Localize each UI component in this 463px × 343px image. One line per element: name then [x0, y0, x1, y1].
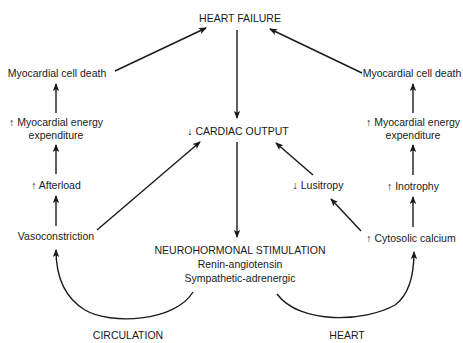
node-left-energy-line2: expenditure	[29, 129, 84, 141]
arrow-neuro-to-vasoconstriction-circulation	[56, 250, 193, 319]
arrow-right-cell-death-to-heart-failure	[270, 29, 362, 73]
node-inotrophy: ↑ Inotrophy	[387, 180, 440, 192]
node-right-cell-death: Myocardial cell death	[363, 67, 462, 79]
node-heart-failure: HEART FAILURE	[199, 12, 281, 24]
arrow-calcium-to-lusitropy	[331, 199, 361, 231]
heart-failure-diagram: HEART FAILURE ↓ CARDIAC OUTPUT Myocardia…	[0, 0, 463, 343]
node-neurohormonal-sympathetic: Sympathetic-adrenergic	[185, 272, 296, 284]
node-cardiac-output: ↓ CARDIAC OUTPUT	[187, 125, 289, 137]
node-cytosolic-calcium: ↑ Cytosolic calcium	[366, 232, 456, 244]
node-afterload: ↑ Afterload	[31, 179, 81, 191]
node-left-cell-death: Myocardial cell death	[8, 67, 107, 79]
node-neurohormonal-renin: Renin-angiotensin	[198, 258, 283, 270]
label-circulation: CIRCULATION	[93, 329, 163, 341]
arrow-lusitropy-to-cardiac-output	[276, 143, 313, 175]
node-vasoconstriction: Vasoconstriction	[18, 230, 94, 242]
node-lusitropy: ↓ Lusitropy	[293, 179, 345, 191]
node-neurohormonal-title: NEUROHORMONAL STIMULATION	[155, 244, 326, 256]
node-right-energy-line1: ↑ Myocardial energy	[366, 116, 461, 128]
arrow-vasoconstriction-to-cardiac-output	[97, 142, 200, 230]
arrow-left-cell-death-to-heart-failure	[115, 28, 206, 71]
arrow-neuro-to-calcium-heart	[277, 252, 414, 318]
node-right-energy-line2: expenditure	[386, 129, 441, 141]
node-left-energy-line1: ↑ Myocardial energy	[9, 116, 104, 128]
label-heart: HEART	[329, 329, 365, 341]
